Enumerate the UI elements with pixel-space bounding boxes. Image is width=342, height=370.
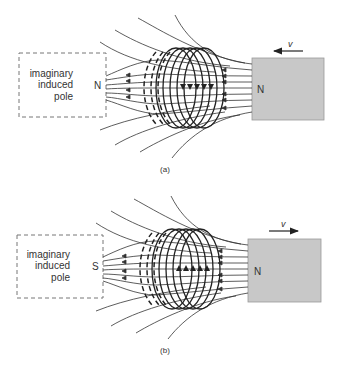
field-lines [100,15,252,158]
velocity-label: v [281,219,286,229]
magnet-pole-label: N [257,84,264,95]
current-arrows [180,84,214,90]
panel-a: imaginary induced pole N N v [19,15,324,174]
field-lines [96,196,248,339]
magnet-pole-label: N [254,266,261,277]
induced-pole-letter: S [92,261,99,272]
velocity-label: v [288,39,293,49]
induced-pole-label-line3: pole [51,272,70,283]
induced-pole-label-line1: imaginary [27,249,70,260]
current-arrows [176,265,210,271]
induced-pole-label-line3: pole [54,91,73,102]
panel-b: imaginary induced pole S N v [17,196,321,355]
induced-pole-label-line2: induced [35,260,70,271]
induced-pole-label-line1: imaginary [30,68,73,79]
induced-pole-letter: N [94,80,101,91]
induced-pole-label-line2: induced [38,79,73,90]
caption-b: (b) [160,346,170,355]
caption-a: (a) [160,165,170,174]
